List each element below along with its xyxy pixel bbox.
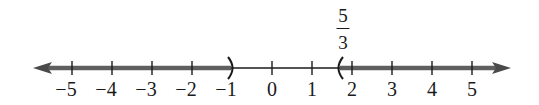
tick-label: 4 [427,79,437,99]
tick-label: −2 [175,79,196,99]
tick-label: −5 [55,79,76,99]
fraction-denominator: 3 [337,33,350,52]
tick-label: 5 [467,79,477,99]
tick-label: 1 [307,79,317,99]
tick-label: 2 [347,79,357,99]
tick-label: −4 [95,79,116,99]
fraction-numerator: 5 [337,6,350,25]
fraction-annotation: 5 3 [337,6,350,52]
fraction-bar [337,28,350,29]
tick-label: −1 [215,79,236,99]
number-line-diagram: −5 −4 −3 −2 −1 0 1 2 3 4 5 5 3 [0,0,539,105]
tick-label: −3 [135,79,156,99]
tick-label: 3 [387,79,397,99]
tick-label: 0 [267,79,277,99]
